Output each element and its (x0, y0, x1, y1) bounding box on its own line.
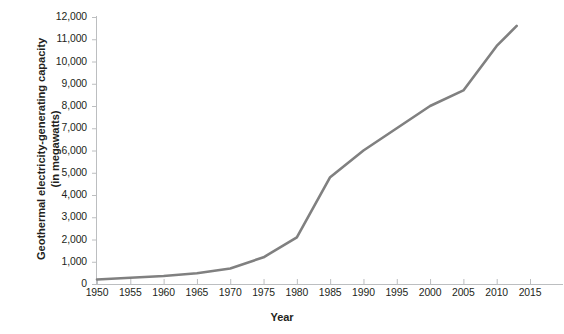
y-axis-tick-label: 7,000 (41, 123, 87, 133)
y-axis-tick-label: 3,000 (41, 212, 87, 222)
y-axis-tick-label: 9,000 (41, 79, 87, 89)
y-axis-tick-label: 5,000 (41, 168, 87, 178)
y-axis-tick-label: 4,000 (41, 190, 87, 200)
data-series-line (97, 26, 517, 280)
y-axis-tick-label: 11,000 (41, 34, 87, 44)
y-axis-tick-label: 8,000 (41, 101, 87, 111)
y-axis-tick-label: 1,000 (41, 257, 87, 267)
axis-lines (96, 16, 563, 285)
y-axis-tick-labels: 01,0002,0003,0004,0005,0006,0007,0008,00… (41, 0, 87, 334)
y-axis-tick-label: 10,000 (41, 57, 87, 67)
x-axis-title: Year (0, 311, 564, 323)
x-axis-tick-labels: 1950195519601965197019751980198519901995… (0, 288, 564, 304)
chart-container: Geothermal electricity-generating capaci… (0, 0, 564, 334)
y-axis-tick-label: 12,000 (41, 12, 87, 22)
y-axis-tick-label: 2,000 (41, 235, 87, 245)
x-axis-tick-label: 2015 (500, 288, 560, 298)
y-axis-tick-label: 6,000 (41, 146, 87, 156)
x-axis-ticks (98, 279, 531, 284)
